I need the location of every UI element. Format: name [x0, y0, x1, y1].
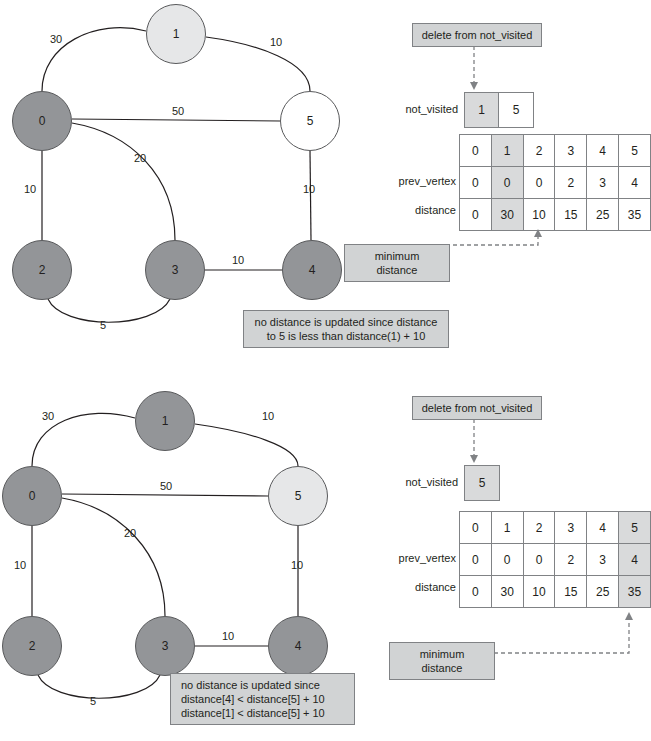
minimum-distance-note: minimum distance — [344, 244, 450, 282]
connector-min-distance — [0, 0, 651, 370]
minimum-distance-note: minimum distance — [389, 642, 495, 680]
dijkstra-step-2-panel: 0 1 2 3 4 5 30 10 50 20 10 10 10 5 no di… — [0, 370, 651, 741]
dijkstra-step-1-panel: 0 1 2 3 4 5 30 10 50 20 10 10 10 5 no di… — [0, 0, 651, 370]
connector-min-distance — [0, 370, 651, 741]
